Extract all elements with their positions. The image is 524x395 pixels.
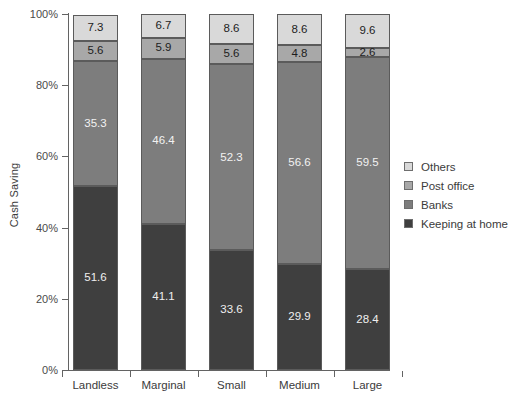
legend-swatch-icon [404, 162, 413, 171]
bar-segment-value: 5.6 [88, 45, 104, 57]
y-axis-line [68, 13, 69, 371]
legend-swatch-icon [404, 181, 413, 190]
legend-label: Keeping at home [421, 218, 508, 230]
x-axis-label-large: Large [353, 379, 382, 391]
bar-landless: 51.635.35.67.3 [73, 14, 118, 370]
x-axis-line [68, 370, 390, 371]
y-axis-tick [62, 299, 68, 300]
bar-segment-value: 29.9 [288, 311, 310, 323]
bar-segment: 29.9 [277, 264, 322, 370]
bar-segment: 41.1 [141, 224, 186, 370]
bar-segment-value: 35.3 [84, 118, 106, 130]
bar-segment: 7.3 [73, 15, 118, 41]
bar-segment: 9.6 [345, 14, 390, 48]
legend-label: Post office [421, 180, 475, 192]
x-axis-label-landless: Landless [72, 379, 118, 391]
chart-legend: OthersPost officeBanksKeeping at home [404, 157, 524, 233]
bar-segment: 8.6 [277, 14, 322, 45]
bar-segment-value: 59.5 [356, 157, 378, 169]
y-axis-tick [62, 85, 68, 86]
y-axis-tick [62, 156, 68, 157]
bar-segment-value: 56.6 [288, 157, 310, 169]
bar-segment: 28.4 [345, 269, 390, 370]
bar-segment-value: 52.3 [220, 152, 242, 164]
x-axis-tick [130, 371, 131, 377]
x-axis-label-medium: Medium [279, 379, 320, 391]
y-axis-tick [62, 228, 68, 229]
bar-segment: 4.8 [277, 45, 322, 62]
legend-item: Post office [404, 176, 524, 195]
bar-segment: 46.4 [141, 59, 186, 224]
bar-segment-value: 6.7 [156, 20, 172, 32]
legend-label: Others [421, 161, 456, 173]
bar-segment: 5.6 [209, 44, 254, 64]
bar-segment-value: 5.9 [156, 42, 172, 54]
x-axis-label-small: Small [217, 379, 246, 391]
bar-segment: 51.6 [73, 186, 118, 370]
bar-segment-value: 7.3 [88, 22, 104, 34]
bar-segment-value: 8.6 [292, 24, 308, 36]
bar-segment-value: 51.6 [84, 272, 106, 284]
bar-segment: 33.6 [209, 250, 254, 370]
y-axis-tick-label: 60% [0, 150, 58, 162]
x-axis-tick [266, 371, 267, 377]
y-axis-tick [62, 14, 68, 15]
x-axis-tick [62, 371, 63, 377]
stacked-bar-chart: Cash Saving 0%20%40%60%80%100% 51.635.35… [0, 0, 524, 395]
bar-segment: 35.3 [73, 61, 118, 187]
y-axis-tick-label: 100% [0, 8, 58, 20]
bar-segment: 6.7 [141, 14, 186, 38]
legend-label: Banks [421, 199, 453, 211]
x-axis-tick [198, 371, 199, 377]
x-axis-tick [402, 371, 403, 377]
legend-swatch-icon [404, 219, 413, 228]
bar-segment: 52.3 [209, 64, 254, 250]
y-axis-tick-label: 20% [0, 293, 58, 305]
legend-swatch-icon [404, 200, 413, 209]
y-axis-tick-label: 40% [0, 222, 58, 234]
bar-segment: 2.6 [345, 48, 390, 57]
bar-segment: 59.5 [345, 57, 390, 269]
bar-segment-value: 28.4 [356, 314, 378, 326]
bar-medium: 29.956.64.88.6 [277, 14, 322, 370]
bar-segment-value: 8.6 [224, 23, 240, 35]
x-axis-tick [334, 371, 335, 377]
bar-segment-value: 9.6 [360, 25, 376, 37]
bar-segment: 56.6 [277, 62, 322, 263]
bar-segment-value: 33.6 [220, 304, 242, 316]
bar-segment-value: 4.8 [292, 48, 308, 60]
bar-small: 33.652.35.68.6 [209, 14, 254, 370]
bar-segment: 5.9 [141, 38, 186, 59]
bar-marginal: 41.146.45.96.7 [141, 14, 186, 370]
bar-segment: 5.6 [73, 41, 118, 61]
y-axis-tick-label: 0% [0, 364, 58, 376]
bar-segment-value: 41.1 [152, 291, 174, 303]
x-axis-label-marginal: Marginal [141, 379, 185, 391]
legend-item: Keeping at home [404, 214, 524, 233]
legend-item: Others [404, 157, 524, 176]
y-axis-tick-label: 80% [0, 79, 58, 91]
bar-segment-value: 5.6 [224, 48, 240, 60]
plot-area: 51.635.35.67.341.146.45.96.733.652.35.68… [73, 14, 380, 370]
bar-segment-value: 46.4 [152, 135, 174, 147]
bar-large: 28.459.52.69.6 [345, 14, 390, 370]
bar-segment: 8.6 [209, 14, 254, 45]
legend-item: Banks [404, 195, 524, 214]
bar-segment-value: 2.6 [360, 47, 376, 59]
y-axis-title: Cash Saving [8, 115, 20, 275]
